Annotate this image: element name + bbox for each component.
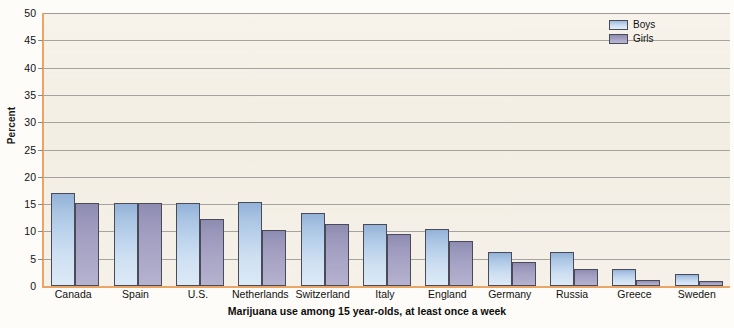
bar-girls-canada [75,203,99,286]
x-label-canada: Canada [55,288,92,300]
chart-screenshot: Percent 05101520253035404550 CanadaSpain… [0,0,734,328]
legend-label-girls: Girls [633,33,654,44]
x-axis-labels: CanadaSpainU.S.NetherlandsSwitzerlandIta… [0,288,734,304]
x-label-russia: Russia [556,288,588,300]
x-label-netherlands: Netherlands [232,288,289,300]
bars-layer [44,13,730,286]
x-label-england: England [428,288,467,300]
y-tick-label-40: 40 [4,62,36,74]
x-label-germany: Germany [488,288,531,300]
scan-artifact-footer [6,320,506,328]
legend-item-girls: Girls [609,32,687,45]
bar-boys-italy [363,224,387,286]
legend: Boys Girls [609,18,687,46]
bar-girls-sweden [699,281,723,286]
plot-area [42,13,730,288]
bar-boys-canada [51,193,75,286]
bar-boys-spain [114,203,138,286]
plot-background [44,13,730,286]
chart-title: Marijuana use among 15 year-olds, at lea… [0,305,734,317]
x-label-italy: Italy [375,288,394,300]
y-tick-label-15: 15 [4,198,36,210]
bar-boys-greece [612,269,636,286]
bar-boys-england [425,229,449,286]
bar-boys-netherlands [238,202,262,286]
bar-girls-germany [512,262,536,286]
legend-label-boys: Boys [633,19,655,30]
bar-girls-greece [636,280,660,286]
bar-boys-sweden [675,274,699,286]
y-tick-label-50: 50 [4,7,36,19]
legend-swatch-boys-icon [609,20,628,30]
bar-girls-spain [138,203,162,286]
bar-girls-italy [387,234,411,286]
y-tick-label-45: 45 [4,34,36,46]
x-label-sweden: Sweden [678,288,716,300]
x-label-u-s: U.S. [188,288,208,300]
bar-girls-switzerland [325,224,349,286]
y-tick-label-20: 20 [4,171,36,183]
legend-swatch-girls-icon [609,34,628,44]
bar-boys-germany [488,252,512,286]
y-tick-label-10: 10 [4,225,36,237]
y-tick-label-5: 5 [4,253,36,265]
bar-girls-england [449,241,473,286]
legend-item-boys: Boys [609,18,687,31]
x-label-greece: Greece [617,288,651,300]
bar-girls-u-s [200,219,224,286]
y-axis-title: Percent [6,91,17,161]
bar-boys-switzerland [301,213,325,286]
bar-boys-u-s [176,203,200,286]
bar-girls-netherlands [262,230,286,286]
x-label-switzerland: Switzerland [295,288,349,300]
bar-girls-russia [574,269,598,286]
x-label-spain: Spain [122,288,149,300]
bar-boys-russia [550,252,574,286]
